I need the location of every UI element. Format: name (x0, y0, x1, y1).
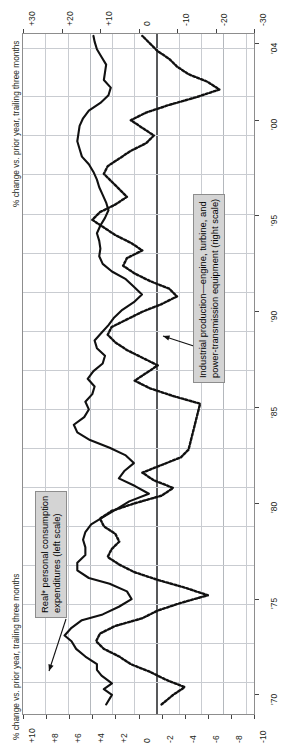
axis-tick-mark (254, 29, 255, 33)
axis-tick-mark (162, 715, 163, 719)
chart-figure: +30+20+100-10-20-30 +10+8+6+4+20-2-4-6-8… (0, 0, 288, 748)
legend-pce-line2: expenditures (left scale) (51, 496, 63, 613)
axis-year-tick-mark (255, 503, 259, 504)
axis-tick-mark (115, 715, 116, 719)
series-line-pce (65, 36, 149, 705)
legend-ip-line2: power-transmission equipment (right scal… (209, 199, 221, 378)
axis-tick-mark (254, 715, 255, 719)
axis-tick-mark (139, 715, 140, 719)
axis-year-label: '00 (269, 119, 279, 130)
axis-tick-label: -30 (258, 13, 268, 26)
axis-tick-label: -10 (258, 730, 268, 743)
axis-year-label: '90 (269, 310, 279, 321)
axis-tick-mark (185, 715, 186, 719)
axis-tick-label: +6 (73, 733, 83, 743)
axis-tick-mark (92, 715, 93, 719)
axis-tick-mark (139, 29, 140, 33)
axis-tick-label: +8 (50, 733, 60, 743)
axis-year-tick-mark (255, 311, 259, 312)
axis-tick-label: 0 (142, 21, 152, 26)
axis-tick-label: -4 (188, 735, 198, 743)
axis-tick-mark (208, 715, 209, 719)
axis-tick-label: -6 (211, 735, 221, 743)
axis-year-tick-mark (255, 407, 259, 408)
axis-tick-mark (23, 29, 24, 33)
axis-tick-label: 0 (142, 738, 152, 743)
axis-year-label: '80 (269, 502, 279, 513)
legend-ip-line1: Industrial production—engine, turbine, a… (197, 199, 209, 378)
axis-year-tick-mark (255, 599, 259, 600)
axis-tick-mark (100, 29, 101, 33)
legend-pce-line1: Real* personal consumption (39, 496, 51, 613)
legend-pce: Real* personal consumption expenditures … (35, 491, 67, 618)
axis-tick-label: -8 (234, 735, 244, 743)
axis-tick-label: -2 (165, 735, 175, 743)
axis-tick-mark (69, 715, 70, 719)
axis-tick-mark (23, 715, 24, 719)
axis-year-tick-mark (255, 43, 259, 44)
axis-title-bottom: % change vs. prior year, trailing three … (11, 574, 21, 740)
axis-year-label: '75 (269, 598, 279, 609)
axis-year-label: '95 (269, 215, 279, 226)
axis-tick-label: +10 (27, 728, 37, 743)
axis-tick-mark (62, 29, 63, 33)
axis-tick-label: +2 (119, 733, 129, 743)
axis-year-tick-mark (255, 120, 259, 121)
legend-industrial-production: Industrial production—engine, turbine, a… (193, 194, 225, 383)
callout-arrow-pce (49, 619, 66, 671)
axis-tick-mark (216, 29, 217, 33)
axis-year-label: '85 (269, 406, 279, 417)
axis-tick-label: +4 (96, 733, 106, 743)
axis-tick-label: +10 (104, 11, 114, 26)
axis-year-tick-mark (255, 215, 259, 216)
axis-year-label: '04 (269, 42, 279, 53)
axis-tick-mark (177, 29, 178, 33)
axis-title-top: % change vs. prior year, trailing three … (11, 41, 21, 207)
axis-tick-label: +30 (27, 11, 37, 26)
axis-tick-mark (231, 715, 232, 719)
axis-year-label: '70 (269, 693, 279, 704)
callout-arrowhead-industrial-production (163, 335, 170, 340)
axis-tick-label: -10 (181, 13, 191, 26)
axis-tick-mark (46, 715, 47, 719)
axis-tick-label: -20 (219, 13, 229, 26)
axis-tick-label: +20 (65, 11, 75, 26)
axis-year-tick-mark (255, 694, 259, 695)
callout-arrowhead-pce (48, 664, 53, 671)
